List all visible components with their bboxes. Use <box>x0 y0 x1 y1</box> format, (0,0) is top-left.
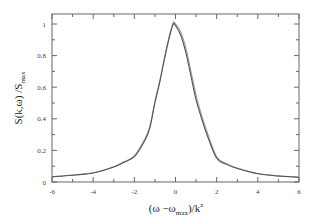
plot-frame <box>52 14 299 182</box>
y-tick-label: 0.2 <box>37 147 46 155</box>
x-label-main: (ω −ω <box>149 202 176 215</box>
x-axis-ticks: -6-4-20246 <box>49 14 301 196</box>
x-tick-label: -2 <box>131 188 137 196</box>
x-tick-label: 4 <box>256 188 260 196</box>
x-label-sub: max <box>176 209 189 217</box>
x-label-sup: z <box>200 201 203 209</box>
x-tick-label: 6 <box>297 188 301 196</box>
series-line <box>52 22 299 177</box>
x-axis-label: (ω −ωmax)/kz <box>149 201 204 217</box>
y-axis-ticks: 00.20.40.60.81 <box>37 21 299 187</box>
x-tick-label: -6 <box>49 188 55 196</box>
y-axis-label: S(k,ω) /Smax <box>12 71 27 124</box>
x-tick-label: -4 <box>90 188 96 196</box>
y-tick-label: 0 <box>43 179 47 187</box>
x-tick-label: 0 <box>174 188 178 196</box>
y-tick-label: 1 <box>43 21 47 29</box>
y-tick-label: 0.4 <box>37 115 46 123</box>
series-line <box>52 23 299 177</box>
y-label-sub: max <box>19 71 27 84</box>
x-tick-label: 2 <box>215 188 219 196</box>
y-label-main: S(k,ω) /S <box>12 84 25 125</box>
x-label-tail: )/k <box>188 202 201 215</box>
data-series <box>52 22 299 177</box>
line-chart: -6-4-20246 00.20.40.60.81 (ω −ωmax)/kz S… <box>0 0 315 224</box>
y-tick-label: 0.6 <box>37 84 46 92</box>
y-tick-label: 0.8 <box>37 52 46 60</box>
